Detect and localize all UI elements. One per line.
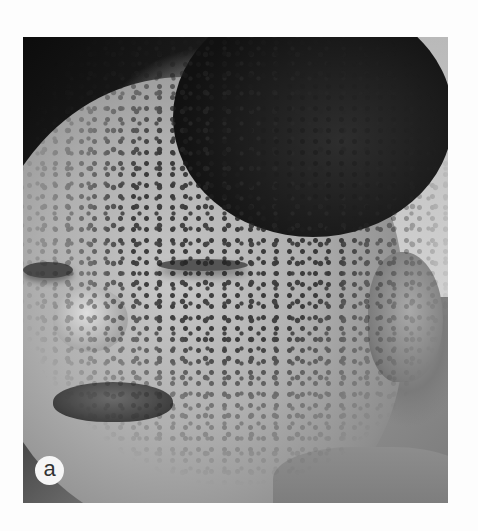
clinical-photo — [23, 37, 448, 503]
skin-lesions-overlay — [23, 37, 448, 503]
panel-label: a — [43, 458, 55, 480]
panel-label-badge: a — [35, 456, 64, 485]
